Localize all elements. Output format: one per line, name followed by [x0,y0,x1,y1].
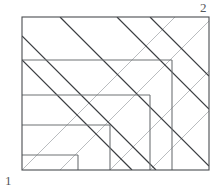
outer-rectangle-frame [22,17,209,170]
dark-diagonal-3 [60,17,209,166]
light-diagonal-5 [150,111,209,170]
geometric-figure: 1 2 [0,0,221,196]
figure-canvas [0,0,221,196]
dark-diagonal-5 [150,17,209,76]
light-diagonal-lines [22,17,209,170]
corner-label-top-right: 2 [200,1,207,14]
dark-diagonal-lines [22,17,209,170]
light-diagonal-2 [22,122,70,170]
corner-label-bottom-left: 1 [5,174,12,187]
light-diagonal-4 [110,71,209,170]
